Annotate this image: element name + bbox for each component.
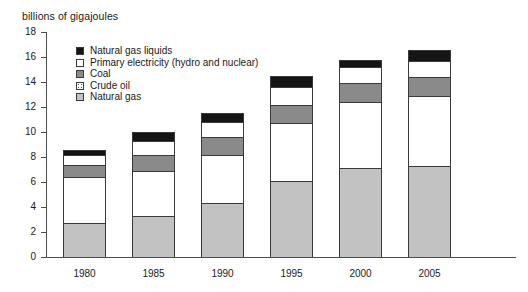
y-axis-tick-label: 18 <box>8 27 36 37</box>
y-axis-tick-label: 8 <box>8 152 36 162</box>
legend-item-label: Natural gas liquids <box>90 46 172 56</box>
legend-item-label: Crude oil <box>90 81 130 91</box>
x-axis-tick-label-1990: 1990 <box>193 268 253 279</box>
bar-2000[interactable] <box>339 60 382 258</box>
x-axis-tick-label-2000: 2000 <box>331 268 391 279</box>
bar-segment-coal <box>270 105 313 124</box>
bar-segment-coal <box>201 137 244 155</box>
bar-segment-crude-oil <box>339 102 382 168</box>
y-axis-tick-label: 6 <box>8 177 36 187</box>
legend-item-label: Coal <box>90 69 111 79</box>
y-axis-tick-label: 12 <box>8 102 36 112</box>
x-axis-tick-label-1995: 1995 <box>262 268 322 279</box>
bar-segment-natural-gas-liquids <box>339 60 382 68</box>
bar-2005[interactable] <box>408 50 451 258</box>
bar-segment-primary-electricity <box>63 155 106 165</box>
bar-segment-natural-gas <box>63 223 106 257</box>
y-axis-tick-label: 4 <box>8 202 36 212</box>
bar-segment-crude-oil <box>132 171 175 216</box>
y-axis-tick <box>41 257 47 258</box>
bar-segment-primary-electricity <box>408 61 451 77</box>
y-axis-tick-label: 0 <box>8 252 36 262</box>
bar-segment-natural-gas <box>408 166 451 257</box>
bar-segment-natural-gas <box>201 203 244 257</box>
bar-segment-crude-oil <box>270 123 313 181</box>
bar-segment-coal <box>132 155 175 171</box>
legend-item-natural-gas[interactable]: Natural gas <box>76 92 258 103</box>
bar-segment-crude-oil <box>201 155 244 204</box>
legend-swatch-icon <box>76 82 84 90</box>
stacked-bar-chart: billions of gigajoules 024681012141618 1… <box>0 0 528 292</box>
x-axis-tick-label-2005: 2005 <box>400 268 460 279</box>
bar-1990[interactable] <box>201 113 244 257</box>
bar-segment-crude-oil <box>63 177 106 223</box>
y-axis-tick-label: 14 <box>8 77 36 87</box>
legend-item-label: Natural gas <box>90 92 141 102</box>
bar-segment-natural-gas-liquids <box>201 113 244 122</box>
bar-segment-primary-electricity <box>201 122 244 137</box>
legend-swatch-icon <box>76 70 84 78</box>
chart-legend: Natural gas liquidsPrimary electricity (… <box>76 46 258 103</box>
x-axis-tick-label-1980: 1980 <box>55 268 115 279</box>
legend-item-coal[interactable]: Coal <box>76 69 258 80</box>
bar-segment-natural-gas-liquids <box>270 76 313 87</box>
y-axis-title: billions of gigajoules <box>22 10 118 22</box>
x-axis-tick-label-1985: 1985 <box>124 268 184 279</box>
legend-swatch-icon <box>76 59 84 67</box>
bar-segment-primary-electricity <box>270 87 313 105</box>
legend-swatch-icon <box>76 47 84 55</box>
bar-segment-natural-gas <box>339 168 382 257</box>
x-axis-line <box>46 257 516 258</box>
bar-1980[interactable] <box>63 150 106 258</box>
legend-swatch-icon <box>76 93 84 101</box>
bar-segment-coal <box>408 77 451 96</box>
legend-item-primary-electricity-hydro-and-nuclear[interactable]: Primary electricity (hydro and nuclear) <box>76 58 258 69</box>
legend-item-natural-gas-liquids[interactable]: Natural gas liquids <box>76 46 258 57</box>
x-axis-label-group: 198019851990199520002005 <box>46 262 516 282</box>
legend-item-label: Primary electricity (hydro and nuclear) <box>90 58 258 68</box>
y-axis-tick-label: 16 <box>8 52 36 62</box>
legend-item-crude-oil[interactable]: Crude oil <box>76 81 258 92</box>
bar-segment-coal <box>63 165 106 178</box>
bar-segment-coal <box>339 83 382 102</box>
bar-segment-natural-gas-liquids <box>132 132 175 141</box>
bar-segment-natural-gas-liquids <box>408 50 451 61</box>
bar-segment-natural-gas <box>132 216 175 257</box>
bar-1985[interactable] <box>132 132 175 257</box>
bar-segment-natural-gas <box>270 181 313 257</box>
bar-segment-primary-electricity <box>132 141 175 155</box>
y-axis-tick-label: 2 <box>8 227 36 237</box>
bar-segment-primary-electricity <box>339 67 382 83</box>
bar-segment-crude-oil <box>408 96 451 166</box>
bar-1995[interactable] <box>270 76 313 257</box>
y-axis-tick-label: 10 <box>8 127 36 137</box>
